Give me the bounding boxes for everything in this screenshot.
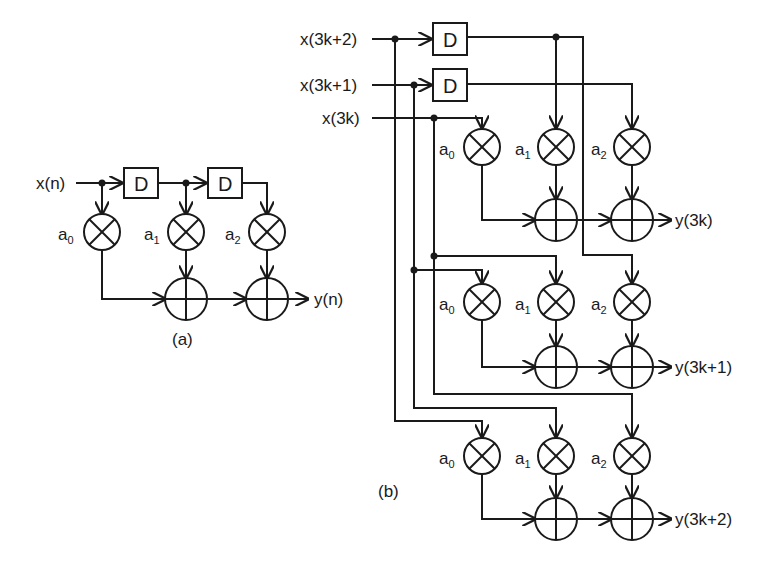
multiplier-a0 [464,284,500,320]
input-label: x(3k+1) [300,76,357,95]
multiplier-a2 [614,438,650,474]
input-label: x(3k+2) [300,30,357,49]
svg-text:a1: a1 [515,295,531,316]
input-label-xn: x(n) [36,174,65,193]
adder [611,346,653,388]
delay-label: D [134,173,148,195]
adder [246,278,288,320]
junction-dot [431,253,438,260]
caption-b: (b) [378,482,399,501]
output-label: y(3k) [675,211,713,230]
multiplier-a0 [464,129,500,165]
adder [535,346,577,388]
row-3: a0 a1 a2 y(3k+2) [439,438,732,540]
multiplier-a0 [464,438,500,474]
adder [535,199,577,241]
diagram-a: x(n) D D a0 a1 a2 [36,168,343,349]
coef-label: a1 [144,225,160,246]
row-1: a0 a1 a2 y(3k) [439,129,713,241]
multiplier-a1 [538,129,574,165]
coef-label: a0 [58,225,74,246]
multiplier-a2 [614,284,650,320]
delay-label: D [218,173,232,195]
caption-a: (a) [172,330,193,349]
junction-dot [392,36,399,43]
svg-text:a1: a1 [515,449,531,470]
delay-label: D [443,75,457,97]
multiplier-a2 [249,214,285,250]
svg-text:a0: a0 [439,449,455,470]
svg-text:a2: a2 [591,295,607,316]
multiplier-a1 [538,438,574,474]
junction-dot [411,267,418,274]
fir-filter-diagrams: x(n) D D a0 a1 a2 [0,0,776,576]
svg-text:a2: a2 [591,140,607,161]
junction-dot [553,34,560,41]
multiplier-a1 [168,214,204,250]
adder [611,199,653,241]
junction-dot [411,82,418,89]
junction-dot [431,115,438,122]
svg-text:a2: a2 [591,449,607,470]
output-label-yn: y(n) [314,290,343,309]
output-label: y(3k+1) [675,358,732,377]
input-label: x(3k) [322,109,360,128]
svg-text:a0: a0 [439,295,455,316]
multiplier-a1 [538,284,574,320]
delay-label: D [443,29,457,51]
multiplier-a2 [614,129,650,165]
output-label: y(3k+2) [675,510,732,529]
adder [165,278,207,320]
adder [611,498,653,540]
diagram-b: x(3k+2) x(3k+1) x(3k) D D a [300,23,732,540]
row-2: a0 a1 a2 y(3k+1) [439,284,732,388]
multiplier-a0 [84,214,120,250]
coef-label: a2 [225,225,241,246]
adder [535,498,577,540]
svg-text:a1: a1 [515,140,531,161]
svg-text:a0: a0 [439,140,455,161]
